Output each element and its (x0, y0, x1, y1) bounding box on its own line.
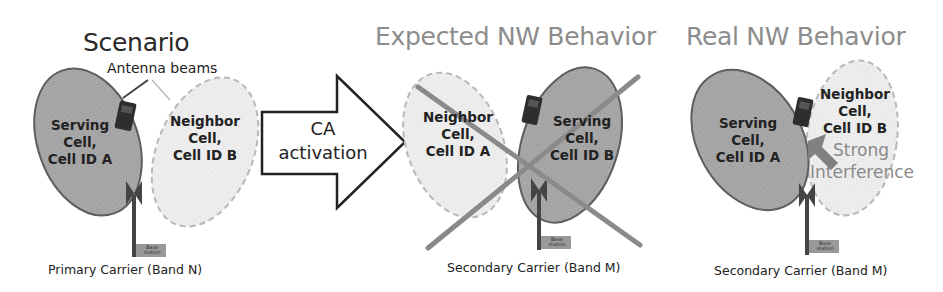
scenario-title: Scenario (83, 28, 189, 57)
base-station-label: Base station (137, 245, 167, 255)
real-title: Real NW Behavior (686, 22, 905, 51)
serving-cell-label: Serving Cell, Cell ID A (708, 115, 788, 166)
antenna-beam-pointer-2 (152, 80, 170, 100)
strong-interference-label: Strong (833, 139, 889, 161)
antenna-beams-label: Antenna beams (107, 60, 217, 76)
neighbor-cell-label: Neighbor Cell, Cell ID B (165, 113, 245, 164)
base-station-label: Base station (810, 241, 840, 251)
serving-cell-label: Serving Cell, Cell ID A (40, 117, 120, 168)
ca-activation-label: CA activation (278, 117, 368, 165)
secondary-carrier-caption: Secondary Carrier (Band M) (714, 263, 888, 278)
base-station-label: Base station (542, 237, 572, 247)
antenna-beam-pointer (123, 80, 148, 98)
strong-interference-label-2: Interference (810, 161, 914, 183)
primary-carrier-caption: Primary Carrier (Band N) (48, 262, 202, 277)
serving-cell-label: Serving Cell, Cell ID B (542, 113, 622, 164)
secondary-carrier-caption: Secondary Carrier (Band M) (447, 260, 621, 275)
expected-title: Expected NW Behavior (375, 22, 656, 51)
neighbor-cell-label: Neighbor Cell, Cell ID A (418, 109, 498, 160)
neighbor-cell-label: Neighbor Cell, Cell ID B (815, 86, 895, 137)
